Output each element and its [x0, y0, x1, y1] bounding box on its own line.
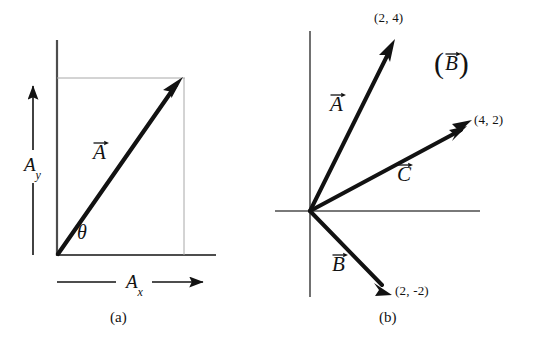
vector-arrow-accent — [332, 251, 344, 257]
label-vector-a-panel-b: A — [330, 92, 343, 115]
vector-arrow-accent — [445, 50, 457, 56]
panel-b: (2, 4) (4, 2) (2, -2) A — [269, 0, 538, 350]
label-ax: Ax — [126, 272, 143, 295]
grouped-label-open-paren: ( — [434, 46, 444, 79]
label-theta: θ — [77, 222, 87, 242]
label-vector-b-panel-b: B — [332, 252, 345, 275]
label-vector-a-panel-a: A — [93, 140, 106, 163]
vector-arrow-accent — [330, 91, 342, 97]
vector-arrow-accent — [397, 161, 410, 167]
figure-root: Ay Ax A θ (a) — [0, 0, 538, 350]
caption-panel-a: (a) — [110, 310, 127, 325]
coord-label-c: (4, 2) — [474, 113, 503, 126]
coord-label-a: (2, 4) — [374, 11, 403, 24]
vector-arrow-accent — [93, 139, 105, 145]
label-grouped-vector-b: ( B ) — [434, 45, 469, 75]
label-vector-c-panel-b: C — [397, 162, 411, 185]
panel-b-vector-a — [310, 39, 395, 211]
coord-label-b: (2, -2) — [395, 284, 429, 297]
caption-panel-b: (b) — [379, 310, 397, 325]
grouped-label-close-paren: ) — [459, 46, 469, 79]
label-ay: Ay — [24, 155, 41, 178]
panel-a: Ay Ax A θ (a) — [0, 0, 269, 350]
panel-b-vector-b — [310, 211, 392, 296]
